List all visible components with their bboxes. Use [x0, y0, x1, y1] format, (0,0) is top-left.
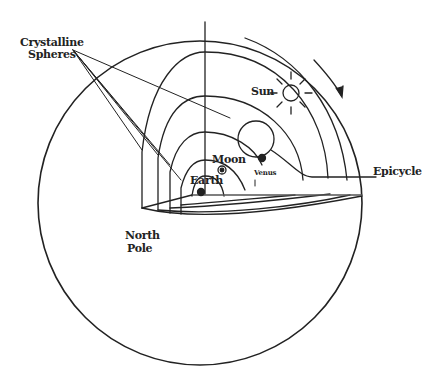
sun-label: Sun	[251, 86, 274, 97]
moon-label: Moon	[212, 154, 246, 165]
north-pole-label: North Pole	[125, 230, 160, 254]
earth-label: Earth	[190, 175, 223, 186]
earth-dot	[198, 189, 205, 196]
epicycle-leader	[271, 150, 376, 177]
crystalline-sphere-3	[170, 132, 262, 213]
crystalline-label-line2: Spheres	[20, 49, 84, 60]
base-front-edge	[142, 195, 192, 208]
epicycle-label: Epicycle	[373, 166, 422, 177]
crystalline-spheres-diagram: Crystalline Spheres Sun Moon Earth Venus…	[0, 0, 436, 385]
sun-icon	[270, 72, 312, 114]
venus-label: Venus	[254, 169, 276, 176]
venus-dot	[259, 155, 266, 162]
crystalline-label-line1: Crystalline	[20, 37, 84, 48]
north-pole-line2: Pole	[125, 243, 160, 254]
crystalline-spheres-label: Crystalline Spheres	[20, 37, 84, 60]
moon-dot	[220, 168, 224, 172]
north-pole-line1: North	[125, 230, 160, 241]
epicycle-circle	[238, 121, 274, 157]
